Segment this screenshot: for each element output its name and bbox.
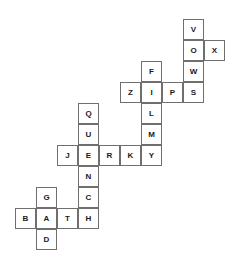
- grid-cell-k[interactable]: K: [120, 145, 141, 166]
- grid-cell-j[interactable]: J: [57, 145, 78, 166]
- grid-cell-t[interactable]: T: [57, 208, 78, 229]
- grid-cell-p[interactable]: P: [162, 82, 183, 103]
- grid-cell-f[interactable]: F: [141, 61, 162, 82]
- grid-cell-o[interactable]: O: [183, 40, 204, 61]
- grid-cell-e[interactable]: E: [78, 145, 99, 166]
- grid-cell-w[interactable]: W: [183, 61, 204, 82]
- grid-cell-l[interactable]: L: [141, 103, 162, 124]
- grid-cell-s[interactable]: S: [183, 82, 204, 103]
- grid-cell-a[interactable]: A: [36, 208, 57, 229]
- grid-cell-v[interactable]: V: [183, 19, 204, 40]
- grid-cell-z[interactable]: Z: [120, 82, 141, 103]
- grid-cell-u[interactable]: U: [78, 124, 99, 145]
- grid-cell-x[interactable]: X: [204, 40, 225, 61]
- grid-cell-q[interactable]: Q: [78, 103, 99, 124]
- grid-cell-m[interactable]: M: [141, 124, 162, 145]
- grid-cell-y[interactable]: Y: [141, 145, 162, 166]
- grid-cell-c[interactable]: C: [78, 187, 99, 208]
- grid-cell-r[interactable]: R: [99, 145, 120, 166]
- grid-cell-d[interactable]: D: [36, 229, 57, 250]
- crossword-grid: VOXWFZIPSQLUMJERKYNGCBATHD: [0, 0, 241, 265]
- grid-cell-b[interactable]: B: [15, 208, 36, 229]
- grid-cell-h[interactable]: H: [78, 208, 99, 229]
- grid-cell-n[interactable]: N: [78, 166, 99, 187]
- grid-cell-i[interactable]: I: [141, 82, 162, 103]
- grid-cell-g[interactable]: G: [36, 187, 57, 208]
